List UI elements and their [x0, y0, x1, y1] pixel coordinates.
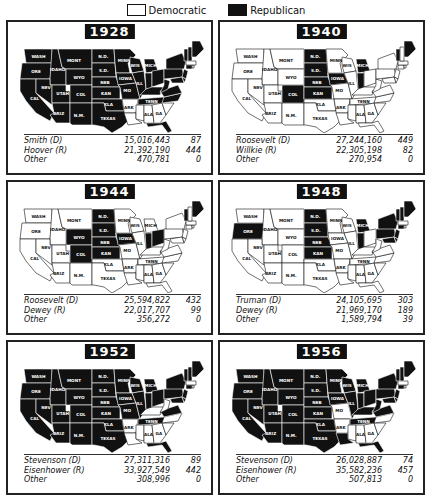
state-label: MICH [144, 223, 157, 228]
state-label: MONT [67, 218, 81, 223]
results-table: Stevenson (D)26,028,88774 Eisenhower (R)… [236, 454, 413, 485]
state-label: WYO [73, 395, 85, 400]
state-label: WYO [285, 395, 297, 400]
state-label: N.D. [310, 54, 321, 59]
election-panel-1944: 1944 WASHORECALIDAHONEVMONTWYOUTAHARIZCO… [6, 180, 213, 335]
state-ind [357, 393, 364, 409]
state-label: S.D. [311, 68, 321, 73]
legend-republican: Republican [228, 3, 305, 17]
election-panel-1956: 1956 WASHORECALIDAHONEVMONTWYOUTAHARIZCO… [218, 340, 425, 495]
state-miss [136, 425, 144, 441]
state-label: CAL [242, 416, 251, 421]
state-ny [378, 53, 398, 69]
electoral-votes: 0 [180, 155, 201, 165]
state-label: MINN [118, 58, 131, 63]
state-label: TENN [145, 419, 158, 424]
result-row-democrat: Roosevelt (D)25,594,822432 [24, 296, 201, 306]
state-label: UTAH [56, 251, 69, 256]
state-label: WASH [243, 374, 258, 379]
candidate-name: Dewey (R) [24, 306, 90, 316]
state-mass [186, 221, 196, 225]
state-label: KAN [101, 411, 111, 416]
popular-votes: 26,028,887 [302, 456, 392, 466]
state-label: MO [123, 248, 131, 253]
state-label: NEB [100, 240, 110, 245]
year-label: 1952 [84, 344, 134, 359]
state-label: NEB [100, 80, 110, 85]
republican-swatch-icon [228, 4, 247, 16]
year-label: 1928 [84, 24, 134, 39]
year-label: 1944 [84, 184, 134, 199]
electoral-votes: 432 [180, 296, 201, 306]
state-label: WASH [243, 54, 258, 59]
state-conn [186, 65, 192, 69]
state-conn [398, 225, 404, 229]
state-label: ILL [136, 241, 143, 246]
candidate-name: Willkie (R) [236, 146, 302, 156]
state-label: NEV [253, 405, 263, 410]
state-label: MINN [330, 58, 343, 63]
result-row-democrat: Smith (D)15,016,44387 [24, 136, 201, 146]
state-label: COL [76, 412, 86, 417]
state-fla [358, 441, 384, 453]
state-ny [166, 213, 186, 229]
state-label: IOWA [119, 396, 133, 401]
state-me [192, 201, 204, 217]
popular-votes: 308,996 [90, 475, 180, 485]
popular-votes: 21,392,190 [90, 146, 180, 156]
popular-votes: 27,311,316 [90, 456, 180, 466]
state-label: IOWA [331, 76, 345, 81]
state-label: ARK [124, 425, 134, 430]
state-vt [184, 49, 188, 61]
popular-votes: 35,582,236 [302, 466, 392, 476]
popular-votes: 15,016,443 [90, 136, 180, 146]
candidate-name: Eisenhower (R) [24, 466, 90, 476]
results-table: Roosevelt (D)25,594,822432 Dewey (R)22,0… [24, 294, 201, 325]
state-conn [186, 385, 192, 389]
state-label: ALA [356, 272, 366, 277]
state-label: NEV [41, 405, 51, 410]
state-label: WASH [31, 214, 46, 219]
state-label: ALA [144, 272, 154, 277]
state-label: TENN [145, 259, 158, 264]
electoral-votes: 442 [180, 466, 201, 476]
state-nh [188, 47, 192, 61]
result-row-other: Other356,2720 [24, 315, 201, 325]
state-label: MONT [67, 58, 81, 63]
state-label: COL [76, 92, 86, 97]
popular-votes: 24,105,695 [302, 296, 392, 306]
state-ri [192, 65, 194, 68]
state-label: CAL [242, 96, 251, 101]
state-label: WIS [343, 223, 352, 228]
state-ind [357, 73, 364, 89]
year-label: 1940 [296, 24, 346, 39]
state-vt [396, 209, 400, 221]
state-label: ARIZ [265, 431, 276, 436]
us-map: WASHORECALIDAHONEVMONTWYOUTAHARIZCOLN.M.… [226, 201, 418, 293]
state-fla [146, 441, 172, 453]
result-row-republican: Dewey (R)22,017,70799 [24, 306, 201, 316]
state-label: GA [155, 271, 162, 276]
result-row-republican: Hoover (R)21,392,190444 [24, 146, 201, 156]
state-ind [145, 73, 152, 89]
state-label: UTAH [56, 411, 69, 416]
popular-votes: 1,589,794 [302, 315, 392, 325]
electoral-votes: 0 [180, 475, 201, 485]
state-conn [398, 385, 404, 389]
popular-votes: 270,954 [302, 155, 392, 165]
state-label: GA [155, 431, 162, 436]
state-label: MINN [330, 378, 343, 383]
popular-votes: 22,017,707 [90, 306, 180, 316]
candidate-name: Truman (D) [236, 296, 302, 306]
candidate-name: Other [236, 155, 302, 165]
popular-votes: 22,305,198 [302, 146, 392, 156]
state-label: WIS [131, 63, 140, 68]
electoral-votes: 457 [392, 466, 413, 476]
state-label: MICH [356, 63, 369, 68]
state-label: ILL [136, 401, 143, 406]
state-label: CAL [30, 96, 39, 101]
election-panel-1952: 1952 WASHORECALIDAHONEVMONTWYOUTAHARIZCO… [6, 340, 213, 495]
state-label: ORE [31, 389, 41, 394]
state-label: UTAH [56, 91, 69, 96]
candidate-name: Other [24, 155, 90, 165]
